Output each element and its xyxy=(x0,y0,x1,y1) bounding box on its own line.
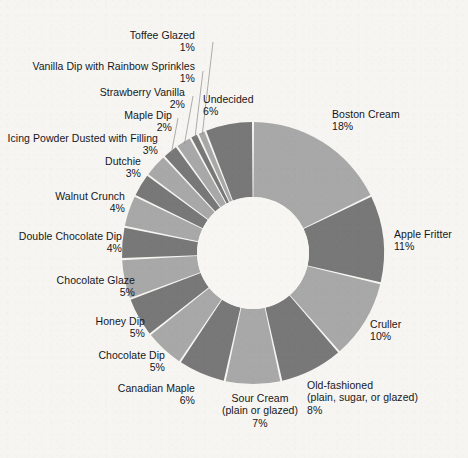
leader-line xyxy=(184,96,193,144)
slice-label-name: Boston Cream xyxy=(332,108,400,120)
slice-label-chocolate-glaze: Chocolate Glaze 5% xyxy=(5,274,135,299)
slice-label-name: Dutchie xyxy=(40,155,141,167)
slice-label-toffee-glazed: Toffee Glazed 1% xyxy=(68,29,195,54)
slice-label-subtitle: (plain or glazed) xyxy=(206,404,314,416)
slice-label-name: Undecided xyxy=(203,93,254,105)
slice-label-pct: 5% xyxy=(5,286,135,298)
slice-label-name: Canadian Maple xyxy=(35,382,195,394)
slice-label-name: Sour Cream xyxy=(206,392,314,404)
slice-label-vanilla-sprinkles: Vanilla Dip with Rainbow Sprinkles 1% xyxy=(0,60,195,85)
leader-line xyxy=(202,42,213,134)
slice-label-canadian-maple: Canadian Maple 6% xyxy=(35,382,195,407)
slice-label-walnut-crunch: Walnut Crunch 4% xyxy=(20,190,125,215)
slice-label-strawberry-vanilla: Strawberry Vanilla 2% xyxy=(45,86,185,111)
slice-label-name: Apple Fritter xyxy=(394,228,452,240)
leader-line xyxy=(195,71,203,138)
slice-label-dutchie: Dutchie 3% xyxy=(40,155,141,180)
slice-label-name: Maple Dip xyxy=(60,109,172,121)
slice-label-old-fashioned: Old-fashioned (plain, sugar, or glazed) … xyxy=(307,379,418,416)
slice-label-cruller: Cruller 10% xyxy=(370,318,401,343)
slice-label-pct: 11% xyxy=(394,240,452,252)
slice-label-name: Honey Dip xyxy=(10,315,145,327)
slice-label-name: Chocolate Dip xyxy=(20,349,165,361)
slice-label-name: Toffee Glazed xyxy=(68,29,195,41)
slice-label-name: Double Chocolate Dip xyxy=(0,230,122,242)
slice-label-name: Icing Powder Dusted with Filling xyxy=(0,132,158,144)
slice-label-pct: 18% xyxy=(332,120,400,132)
slice-label-pct: 5% xyxy=(20,361,165,373)
slice-label-pct: 3% xyxy=(40,167,141,179)
slice-label-pct: 6% xyxy=(35,394,195,406)
slice-label-name: Strawberry Vanilla xyxy=(45,86,185,98)
slice-label-pct: 8% xyxy=(307,404,418,416)
slice-label-pct: 1% xyxy=(0,72,195,84)
slice-label-honey-dip: Honey Dip 5% xyxy=(10,315,145,340)
donut-hole xyxy=(197,197,309,309)
slice-label-pct: 10% xyxy=(370,330,401,342)
slice-label-maple-dip: Maple Dip 2% xyxy=(60,109,172,134)
slice-label-name: Old-fashioned xyxy=(307,379,418,391)
slice-label-chocolate-dip: Chocolate Dip 5% xyxy=(20,349,165,374)
slice-label-pct: 2% xyxy=(60,121,172,133)
slice-label-subtitle: (plain, sugar, or glazed) xyxy=(307,391,418,403)
slice-label-pct: 5% xyxy=(10,327,145,339)
slice-label-pct: 4% xyxy=(20,202,125,214)
slice-label-pct: 2% xyxy=(45,98,185,110)
slice-label-undecided: Undecided 6% xyxy=(203,93,254,118)
slice-label-name: Chocolate Glaze xyxy=(5,274,135,286)
slice-label-boston-cream: Boston Cream 18% xyxy=(332,108,400,133)
slice-label-pct: 7% xyxy=(206,417,314,429)
slice-label-sour-cream: Sour Cream (plain or glazed) 7% xyxy=(206,392,314,429)
slice-label-name: Walnut Crunch xyxy=(20,190,125,202)
slice-label-icing-powder: Icing Powder Dusted with Filling 3% xyxy=(0,132,158,157)
donut-chart: Boston Cream 18% Apple Fritter 11% Crull… xyxy=(0,0,468,458)
slice-label-pct: 3% xyxy=(0,144,158,156)
slice-label-name: Cruller xyxy=(370,318,401,330)
slice-label-double-chocolate-dip: Double Chocolate Dip 4% xyxy=(0,230,122,255)
slice-label-pct: 6% xyxy=(203,105,254,117)
slice-label-name: Vanilla Dip with Rainbow Sprinkles xyxy=(0,60,195,72)
slice-label-pct: 4% xyxy=(0,242,122,254)
slice-label-apple-fritter: Apple Fritter 11% xyxy=(394,228,452,253)
leader-line xyxy=(171,118,178,153)
slice-label-pct: 1% xyxy=(68,41,195,53)
